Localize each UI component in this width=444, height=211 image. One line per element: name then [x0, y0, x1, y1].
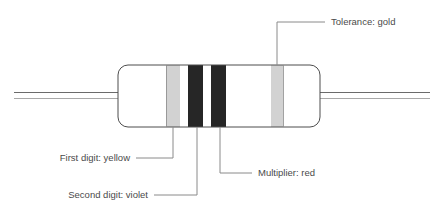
band-tolerance — [271, 65, 283, 127]
annotation-label-first-digit: First digit: yellow — [60, 152, 130, 163]
leader-multiplier — [220, 127, 252, 173]
diagram-canvas: Tolerance: gold First digit: yellow Seco… — [0, 0, 444, 211]
band-first-digit — [166, 65, 180, 127]
leader-tolerance — [277, 22, 325, 65]
annotation-label-tolerance: Tolerance: gold — [331, 16, 395, 27]
band-second-digit — [188, 65, 203, 127]
band-multiplier — [211, 65, 226, 127]
annotation-label-multiplier: Multiplier: red — [258, 167, 315, 178]
resistor-color-code-diagram: Tolerance: gold First digit: yellow Seco… — [0, 0, 444, 211]
annotation-label-second-digit: Second digit: violet — [68, 189, 148, 200]
leader-second-digit — [154, 127, 197, 195]
leader-first-digit — [136, 127, 173, 158]
